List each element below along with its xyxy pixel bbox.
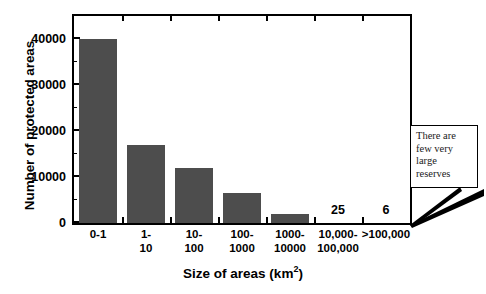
x-axis-tick <box>362 217 364 223</box>
x-axis-tick-label-line: 10000 <box>274 242 306 256</box>
x-axis-title-base: Size of areas (km <box>183 266 293 281</box>
annotation-line: few very <box>416 143 473 156</box>
bar <box>223 193 261 223</box>
annotation-callout-box: There arefew verylargereserves <box>410 125 478 188</box>
y-axis-tick-label: 10000 <box>12 170 66 184</box>
x-axis-top-tick <box>122 16 124 21</box>
x-axis-tick-label-line: 1000- <box>274 228 306 242</box>
x-axis-top-tick <box>218 16 220 21</box>
bar <box>271 214 309 223</box>
bar <box>127 145 165 223</box>
x-axis-tick <box>122 217 124 223</box>
y-axis-minor-tick <box>74 107 77 108</box>
bar <box>79 39 117 223</box>
y-axis-tick-label: 20000 <box>12 124 66 138</box>
x-axis-tick-label-line: 100 <box>184 242 203 256</box>
x-axis-top-tick <box>314 16 316 21</box>
x-axis-tick-label-line: 10- <box>184 228 203 242</box>
y-axis-minor-tick <box>74 153 77 154</box>
bar-value-label: 25 <box>331 203 345 217</box>
x-axis-tick <box>314 217 316 223</box>
annotation-line: reserves <box>416 168 473 181</box>
x-axis-top-tick <box>266 16 268 21</box>
x-axis-tick <box>218 217 220 223</box>
y-axis-minor-tick <box>74 199 77 200</box>
x-axis-tick-labels: 0-11-1010-100100-10001000-1000010,000-10… <box>72 228 412 262</box>
annotation-line: There are <box>416 130 473 143</box>
x-axis-tick-label: 100-1000 <box>229 228 255 255</box>
x-axis-title-close: ) <box>298 266 303 281</box>
x-axis-tick-label: 1-10 <box>140 228 153 255</box>
x-axis-tick-label: 1000-10000 <box>274 228 306 255</box>
chart-figure: Number of protected areas 01000020000300… <box>0 0 486 294</box>
x-axis-tick-label: >100,000 <box>362 228 410 242</box>
x-axis-title: Size of areas (km2) <box>0 264 486 281</box>
plot-area: 256 <box>72 14 412 225</box>
annotation-line: large <box>416 155 473 168</box>
bar <box>175 168 213 223</box>
x-axis-tick-label: 10,000-100,000 <box>317 228 359 255</box>
x-axis-tick-label-line: 1000 <box>229 242 255 256</box>
y-axis-minor-tick <box>74 61 77 62</box>
x-axis-tick-label: 0-1 <box>90 228 107 242</box>
x-axis-tick-label-line: 10,000- <box>317 228 359 242</box>
y-axis-tick-label: 0 <box>12 216 66 230</box>
plot-inner: 256 <box>74 16 410 223</box>
x-axis-tick-label-line: >100,000 <box>362 228 410 242</box>
x-axis-tick <box>170 217 172 223</box>
y-axis-tick-labels: 010000200003000040000 <box>10 0 66 294</box>
x-axis-tick-label-line: 0-1 <box>90 228 107 242</box>
x-axis-tick-label-line: 100- <box>229 228 255 242</box>
x-axis-tick <box>266 217 268 223</box>
x-axis-top-tick <box>170 16 172 21</box>
x-axis-top-tick <box>362 16 364 21</box>
bar-value-label: 6 <box>383 203 390 217</box>
x-axis-tick-label-line: 1- <box>140 228 153 242</box>
y-axis-tick-label: 30000 <box>12 78 66 92</box>
x-axis-tick-label: 10-100 <box>184 228 203 255</box>
x-axis-tick-label-line: 10 <box>140 242 153 256</box>
y-axis-tick-label: 40000 <box>12 32 66 46</box>
x-axis-tick-label-line: 100,000 <box>317 242 359 256</box>
